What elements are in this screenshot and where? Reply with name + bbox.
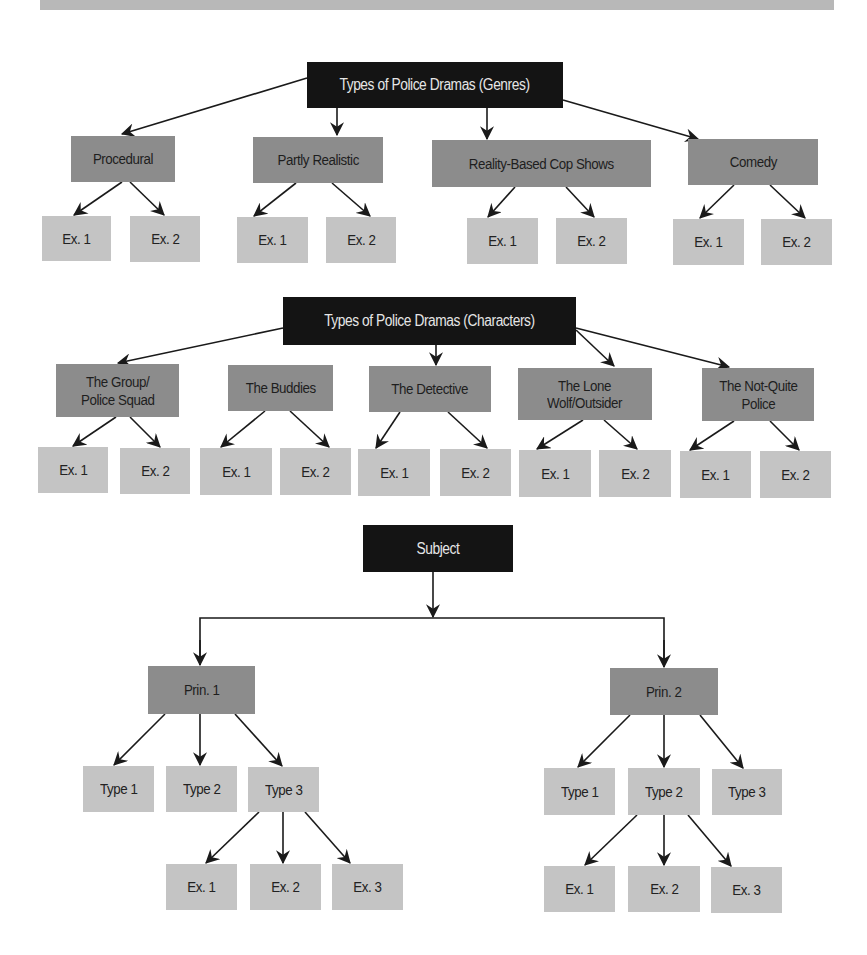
principle-label: Prin. 1 (184, 681, 220, 698)
character-label: The Detective (392, 380, 469, 397)
example-label: Ex. 2 (650, 880, 678, 897)
genre-example-node: Ex. 1 (42, 216, 111, 261)
character-example-node: Ex. 2 (440, 449, 511, 496)
genre-label: Comedy (729, 153, 776, 170)
example-label: Ex. 2 (782, 233, 810, 250)
example-label: Ex. 2 (577, 232, 605, 249)
genre-node-comedy: Comedy (688, 139, 818, 185)
genre-example-node: Ex. 1 (237, 217, 308, 263)
subject-root-label: Subject (417, 540, 460, 558)
subject-example-node: Ex. 3 (332, 864, 403, 910)
example-label: Ex. 1 (694, 233, 722, 250)
example-label: Ex. 2 (151, 230, 179, 247)
genre-example-node: Ex. 2 (556, 218, 627, 264)
subject-example-node: Ex. 1 (544, 866, 615, 912)
characters-root-node: Types of Police Dramas (Characters) (283, 297, 576, 345)
character-label: The Group/ Police Squad (81, 373, 154, 408)
genre-example-node: Ex. 1 (467, 218, 538, 264)
genres-root-label: Types of Police Dramas (Genres) (340, 76, 530, 94)
genre-example-node: Ex. 2 (326, 217, 396, 263)
character-example-node: Ex. 2 (120, 448, 190, 494)
type-label: Type 1 (561, 783, 598, 800)
example-label: Ex. 2 (347, 231, 375, 248)
character-label: The Buddies (245, 379, 315, 396)
example-label: Ex. 2 (461, 464, 489, 481)
example-label: Ex. 2 (271, 878, 299, 895)
subject-example-node: Ex. 3 (711, 867, 782, 913)
character-example-node: Ex. 2 (280, 448, 351, 495)
example-label: Ex. 1 (541, 465, 569, 482)
example-label: Ex. 2 (781, 466, 809, 483)
subject-example-node: Ex. 2 (250, 864, 321, 910)
principle-node-2: Prin. 2 (610, 668, 718, 715)
type-label: Type 3 (728, 783, 765, 800)
character-node-not-quite-police: The Not-Quite Police (702, 368, 814, 421)
character-node-group: The Group/ Police Squad (56, 364, 179, 417)
genre-label: Reality-Based Cop Shows (469, 155, 614, 172)
character-example-node: Ex. 1 (38, 447, 108, 493)
example-label: Ex. 1 (258, 231, 286, 248)
characters-root-label: Types of Police Dramas (Characters) (324, 312, 535, 330)
genre-example-node: Ex. 2 (130, 216, 200, 262)
genre-label: Procedural (93, 150, 153, 167)
character-example-node: Ex. 1 (200, 448, 272, 495)
genre-node-procedural: Procedural (71, 136, 175, 182)
character-node-detective: The Detective (369, 366, 491, 412)
genres-root-node: Types of Police Dramas (Genres) (307, 62, 563, 108)
example-label: Ex. 1 (701, 466, 729, 483)
subject-example-node: Ex. 1 (166, 864, 237, 910)
genre-example-node: Ex. 1 (673, 219, 744, 265)
example-label: Ex. 1 (380, 464, 408, 481)
character-example-node: Ex. 1 (680, 451, 751, 498)
example-label: Ex. 3 (732, 881, 760, 898)
character-example-node: Ex. 2 (760, 451, 831, 498)
type-node: Type 1 (544, 768, 615, 815)
type-label: Type 2 (183, 780, 220, 797)
type-node-expanded: Type 3 (248, 767, 319, 812)
subject-example-node: Ex. 2 (628, 866, 700, 912)
example-label: Ex. 1 (59, 461, 87, 478)
character-label: The Not-Quite Police (719, 377, 797, 412)
character-example-node: Ex. 1 (358, 449, 430, 496)
type-node-expanded: Type 2 (628, 768, 700, 815)
character-label: The Lone Wolf/Outsider (548, 377, 623, 412)
type-node: Type 2 (166, 766, 237, 812)
example-label: Ex. 2 (141, 462, 169, 479)
genre-label: Partly Realistic (277, 151, 358, 168)
type-label: Type 3 (265, 781, 302, 798)
type-label: Type 1 (100, 780, 137, 797)
top-page-bar (40, 0, 834, 10)
example-label: Ex. 1 (187, 878, 215, 895)
type-node: Type 3 (712, 769, 782, 815)
example-label: Ex. 2 (301, 463, 329, 480)
example-label: Ex. 1 (488, 232, 516, 249)
type-label: Type 2 (645, 783, 682, 800)
character-example-node: Ex. 2 (599, 450, 671, 497)
character-node-buddies: The Buddies (228, 365, 333, 411)
genre-example-node: Ex. 2 (761, 219, 832, 265)
character-node-lone-wolf: The Lone Wolf/Outsider (518, 368, 652, 420)
genre-node-partly-realistic: Partly Realistic (253, 137, 383, 183)
arrow (122, 78, 307, 134)
example-label: Ex. 1 (222, 463, 250, 480)
type-node: Type 1 (83, 766, 154, 812)
example-label: Ex. 1 (565, 880, 593, 897)
principle-node-1: Prin. 1 (148, 666, 255, 714)
character-example-node: Ex. 1 (519, 450, 591, 497)
example-label: Ex. 3 (353, 878, 381, 895)
principle-label: Prin. 2 (646, 683, 682, 700)
example-label: Ex. 1 (62, 230, 90, 247)
example-label: Ex. 2 (621, 465, 649, 482)
genre-node-reality-based: Reality-Based Cop Shows (432, 140, 651, 187)
subject-root-node: Subject (363, 525, 513, 572)
